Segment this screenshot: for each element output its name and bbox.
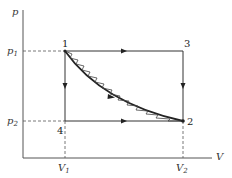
curve-1-2 xyxy=(65,51,183,121)
p1-label: p1 xyxy=(7,45,18,58)
arrow-4-2 xyxy=(121,119,127,124)
v2-label: V2 xyxy=(176,162,188,175)
y-axis-label: p xyxy=(12,6,19,17)
point-4-label: 4 xyxy=(57,125,63,136)
arrow-1-3 xyxy=(121,49,127,54)
arrow-3-2 xyxy=(181,83,186,89)
x-axis-label: V xyxy=(216,151,225,162)
point-2-label: 2 xyxy=(187,116,193,127)
point-1-label: 1 xyxy=(62,38,68,49)
point-3-label: 3 xyxy=(184,38,190,49)
zigzag-1-2 xyxy=(65,51,183,121)
p2-label: p2 xyxy=(7,115,18,128)
point-1-dot xyxy=(64,50,67,53)
point-2-dot xyxy=(181,119,185,123)
pv-diagram: 1 3 2 4 p V p1 p2 V1 V2 xyxy=(0,0,232,178)
v1-label: V1 xyxy=(58,162,70,175)
arrow-1-4 xyxy=(63,83,68,89)
